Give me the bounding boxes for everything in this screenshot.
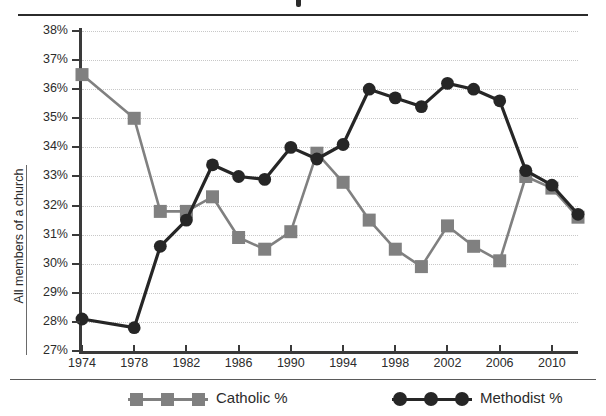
x-axis-line bbox=[79, 351, 578, 354]
legend-label-methodist: Methodist % bbox=[480, 389, 563, 406]
y-axis-tick-label: 32% bbox=[28, 198, 68, 212]
legend-divider-rule bbox=[10, 379, 596, 380]
x-axis-tick-label: 1986 bbox=[214, 356, 264, 370]
x-axis-tick-label: 2006 bbox=[475, 356, 525, 370]
gridline bbox=[82, 293, 578, 294]
y-axis-tick-label: 38% bbox=[28, 23, 68, 37]
y-axis-tick-label-wrap: 31% bbox=[28, 227, 68, 241]
y-axis-tick-label-wrap: 30% bbox=[28, 256, 68, 270]
y-axis-tick bbox=[72, 30, 80, 32]
y-axis-tick-label: 30% bbox=[28, 256, 68, 270]
legend-marker-methodist-2 bbox=[424, 392, 438, 406]
legend-marker-catholic-3 bbox=[192, 393, 205, 406]
y-axis-tick-label: 34% bbox=[28, 139, 68, 153]
gridline bbox=[82, 89, 578, 90]
y-axis-tick-label: 37% bbox=[28, 52, 68, 66]
y-axis-tick-label: 28% bbox=[28, 314, 68, 328]
y-axis-tick bbox=[72, 59, 80, 61]
y-axis-tick-label-wrap: 34% bbox=[28, 139, 68, 153]
gridline bbox=[82, 322, 578, 323]
y-axis-tick bbox=[72, 321, 80, 323]
y-axis-tick bbox=[72, 146, 80, 148]
plot-area bbox=[82, 31, 578, 351]
y-axis-tick-label-wrap: 35% bbox=[28, 110, 68, 124]
legend-label-catholic: Catholic % bbox=[216, 389, 288, 406]
x-axis-tick-label: 2010 bbox=[527, 356, 577, 370]
y-axis-tick-label: 36% bbox=[28, 81, 68, 95]
x-axis-tick-label: 1974 bbox=[57, 356, 107, 370]
cropped-title-descender bbox=[296, 0, 301, 7]
y-axis-tick-label-wrap: 28% bbox=[28, 314, 68, 328]
y-axis-tick-label: 29% bbox=[28, 285, 68, 299]
x-axis-tick bbox=[394, 345, 396, 353]
x-axis-tick bbox=[133, 345, 135, 353]
y-axis-tick-label-wrap: 33% bbox=[28, 168, 68, 182]
top-divider-rule bbox=[18, 14, 588, 16]
x-axis-tick bbox=[446, 345, 448, 353]
gridline bbox=[82, 147, 578, 148]
y-axis-line bbox=[79, 28, 82, 354]
legend-marker-catholic-1 bbox=[130, 393, 143, 406]
y-axis-tick bbox=[72, 205, 80, 207]
y-axis-tick-label: 27% bbox=[28, 343, 68, 357]
x-axis-tick-label: 1978 bbox=[109, 356, 159, 370]
gridline bbox=[82, 118, 578, 119]
x-axis-tick-label: 1982 bbox=[161, 356, 211, 370]
legend-marker-catholic-2 bbox=[161, 393, 174, 406]
x-axis-tick bbox=[499, 345, 501, 353]
y-axis-tick-label: 33% bbox=[28, 168, 68, 182]
y-axis-tick bbox=[72, 117, 80, 119]
y-axis-tick bbox=[72, 234, 80, 236]
gridline bbox=[82, 206, 578, 207]
x-axis-tick bbox=[81, 345, 83, 353]
y-axis-tick-label-wrap: 32% bbox=[28, 198, 68, 212]
x-axis-tick bbox=[185, 345, 187, 353]
x-axis-tick bbox=[290, 345, 292, 353]
y-axis-label: All members of a church bbox=[12, 126, 26, 346]
legend-marker-methodist-3 bbox=[455, 392, 469, 406]
y-axis-tick-label-wrap: 37% bbox=[28, 52, 68, 66]
y-axis-label-rule bbox=[26, 165, 27, 355]
x-axis-tick bbox=[238, 345, 240, 353]
gridline bbox=[82, 31, 578, 32]
y-axis-tick bbox=[72, 88, 80, 90]
x-axis-tick-label: 2002 bbox=[422, 356, 472, 370]
y-axis-tick-label: 35% bbox=[28, 110, 68, 124]
y-axis-tick bbox=[72, 175, 80, 177]
y-axis-tick bbox=[72, 263, 80, 265]
y-axis-tick-label-wrap: 38% bbox=[28, 23, 68, 37]
y-axis-tick bbox=[72, 350, 80, 352]
y-axis-tick-label: 31% bbox=[28, 227, 68, 241]
x-axis-tick bbox=[342, 345, 344, 353]
x-axis-tick-label: 1990 bbox=[266, 356, 316, 370]
chart-container: All members of a church Catholic % Metho… bbox=[0, 0, 606, 416]
gridline bbox=[82, 264, 578, 265]
gridline bbox=[82, 176, 578, 177]
chart-legend: Catholic % Methodist % bbox=[0, 386, 606, 414]
y-axis-tick-label-wrap: 27% bbox=[28, 343, 68, 357]
gridline bbox=[82, 60, 578, 61]
x-axis-tick bbox=[551, 345, 553, 353]
y-axis-tick-label-wrap: 29% bbox=[28, 285, 68, 299]
x-axis-tick-label: 1998 bbox=[370, 356, 420, 370]
gridline bbox=[82, 235, 578, 236]
y-axis-tick-label-wrap: 36% bbox=[28, 81, 68, 95]
x-axis-tick-label: 1994 bbox=[318, 356, 368, 370]
legend-marker-methodist-1 bbox=[393, 392, 407, 406]
y-axis-tick bbox=[72, 292, 80, 294]
